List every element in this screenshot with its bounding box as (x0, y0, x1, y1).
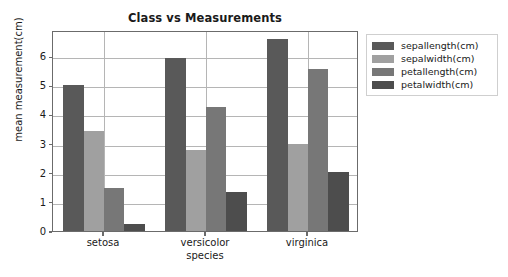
y-tick-mark-2 (49, 173, 53, 174)
y-tick-mark-1 (49, 202, 53, 203)
y-tick-mark-6 (49, 57, 53, 58)
bar-virginica-petallength(cm) (308, 69, 328, 231)
chart-figure: Class vs Measurements mean measurement(c… (0, 0, 508, 277)
bar-versicolor-sepallength(cm) (165, 58, 185, 231)
x-tick-label-setosa: setosa (53, 237, 153, 248)
legend-item-sepalwidth(cm): sepalwidth(cm) (372, 52, 492, 65)
legend-label-petallength(cm): petallength(cm) (401, 67, 477, 77)
y-tick-mark-5 (49, 86, 53, 87)
legend-swatch-sepalwidth(cm) (372, 55, 394, 63)
x-tick-mark-versicolor (204, 232, 205, 236)
legend-item-petallength(cm): petallength(cm) (372, 65, 492, 78)
y-axis-label: mean measurement(cm) (13, 0, 24, 160)
bar-setosa-sepalwidth(cm) (84, 131, 104, 231)
bar-setosa-petallength(cm) (104, 188, 124, 231)
bar-virginica-petalwidth(cm) (328, 172, 348, 231)
y-tick-label-6: 6 (20, 52, 46, 62)
legend-swatch-petallength(cm) (372, 68, 394, 76)
legend-swatch-petalwidth(cm) (372, 81, 394, 89)
legend-label-petalwidth(cm): petalwidth(cm) (401, 80, 473, 90)
x-axis-label: species (52, 250, 358, 261)
bar-versicolor-sepalwidth(cm) (186, 150, 206, 231)
bar-setosa-petalwidth(cm) (124, 224, 144, 231)
bar-virginica-sepalwidth(cm) (288, 144, 308, 231)
y-tick-label-2: 2 (20, 169, 46, 179)
legend-swatch-sepallength(cm) (372, 42, 394, 50)
legend-label-sepallength(cm): sepallength(cm) (401, 41, 478, 51)
gridline-y-6 (53, 58, 357, 59)
x-tick-label-versicolor: versicolor (155, 237, 255, 248)
x-tick-mark-virginica (306, 232, 307, 236)
y-tick-label-3: 3 (20, 140, 46, 150)
plot-area (52, 31, 358, 232)
legend-label-sepalwidth(cm): sepalwidth(cm) (401, 54, 474, 64)
bar-versicolor-petalwidth(cm) (226, 192, 246, 231)
y-tick-label-1: 1 (20, 198, 46, 208)
y-tick-label-4: 4 (20, 110, 46, 120)
y-tick-mark-3 (49, 144, 53, 145)
x-tick-mark-setosa (102, 232, 103, 236)
legend-item-sepallength(cm): sepallength(cm) (372, 39, 492, 52)
legend-item-petalwidth(cm): petalwidth(cm) (372, 78, 492, 91)
chart-legend: sepallength(cm)sepalwidth(cm)petallength… (366, 34, 498, 96)
y-tick-label-0: 0 (20, 227, 46, 237)
x-tick-label-virginica: virginica (257, 237, 357, 248)
y-tick-label-5: 5 (20, 81, 46, 91)
bar-versicolor-petallength(cm) (206, 107, 226, 231)
bar-virginica-sepallength(cm) (267, 39, 287, 231)
y-tick-mark-4 (49, 115, 53, 116)
y-tick-mark-0 (49, 231, 53, 232)
bar-setosa-sepallength(cm) (63, 85, 83, 231)
chart-title: Class vs Measurements (52, 11, 358, 25)
